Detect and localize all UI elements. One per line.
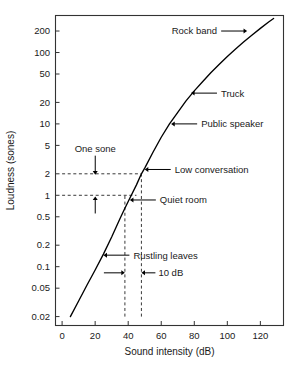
annotation-label: Low conversation xyxy=(175,164,249,175)
annotation-label: Quiet room xyxy=(160,194,207,205)
x-tick-label: 20 xyxy=(90,330,101,341)
y-tick-label: 50 xyxy=(39,68,50,79)
y-tick-label: 10 xyxy=(39,118,50,129)
annotation-label: One sone xyxy=(75,143,116,154)
x-tick-label: 0 xyxy=(59,330,64,341)
y-tick-label: 0.1 xyxy=(37,261,50,272)
loudness-vs-sound-intensity-chart: 0.020.050.10.20.512510205010020002040608… xyxy=(0,0,299,372)
x-tick-label: 40 xyxy=(123,330,134,341)
annotation-label: 10 dB xyxy=(158,267,183,278)
annotation-label: Rustling leaves xyxy=(133,250,198,261)
annotation-label: Truck xyxy=(221,88,245,99)
y-tick-label: 200 xyxy=(34,25,50,36)
y-tick-label: 0.2 xyxy=(37,239,50,250)
x-tick-label: 100 xyxy=(219,330,235,341)
y-tick-label: 5 xyxy=(45,140,50,151)
y-tick-label: 20 xyxy=(39,97,50,108)
y-tick-label: 1 xyxy=(45,190,50,201)
x-tick-label: 60 xyxy=(156,330,167,341)
y-tick-label: 2 xyxy=(45,168,50,179)
y-axis-label: Loudness (sones) xyxy=(5,131,16,211)
x-tick-label: 80 xyxy=(189,330,200,341)
y-tick-label: 100 xyxy=(34,47,50,58)
y-tick-label: 0.05 xyxy=(32,282,51,293)
x-tick-label: 120 xyxy=(252,330,268,341)
y-tick-label: 0.02 xyxy=(32,311,51,322)
annotation-label: Rock band xyxy=(172,25,217,36)
y-tick-label: 0.5 xyxy=(37,211,50,222)
x-axis-label: Sound intensity (dB) xyxy=(124,346,214,357)
annotation-label: Public speaker xyxy=(201,118,263,129)
